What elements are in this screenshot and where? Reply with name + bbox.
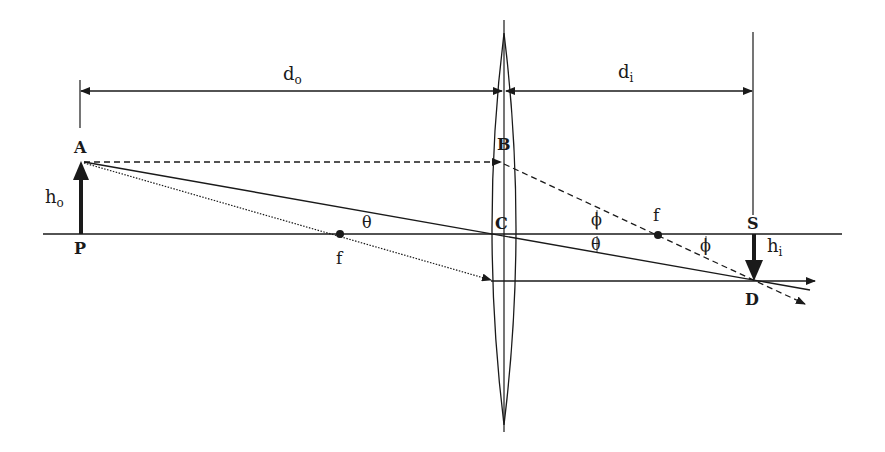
label-S: S	[747, 214, 759, 233]
label-f-right: f	[653, 205, 661, 225]
label-h-i: hi	[767, 235, 783, 259]
label-theta-right: θ	[591, 235, 601, 254]
label-D: D	[745, 290, 759, 309]
label-A: A	[73, 138, 87, 157]
focal-ray	[84, 163, 491, 280]
label-d-o: do	[283, 63, 302, 87]
label-h-o: ho	[45, 186, 64, 210]
image-arrow-head	[745, 260, 763, 281]
focal-point-right	[654, 231, 662, 239]
object-arrow-head	[73, 161, 89, 180]
label-d-i: di	[618, 61, 634, 85]
label-phi-upper: ϕ	[591, 210, 602, 229]
label-theta-left: θ	[362, 213, 372, 232]
label-C: C	[495, 214, 508, 233]
lens-ray-diagram: do di A B C P S D ho hi f f θ ϕ θ ϕ	[0, 0, 885, 452]
label-B: B	[497, 135, 511, 154]
focal-point-left	[336, 230, 344, 238]
chief-ray	[84, 162, 810, 290]
label-P: P	[74, 239, 86, 258]
label-phi-right: ϕ	[700, 236, 711, 255]
label-f-left: f	[336, 248, 344, 268]
